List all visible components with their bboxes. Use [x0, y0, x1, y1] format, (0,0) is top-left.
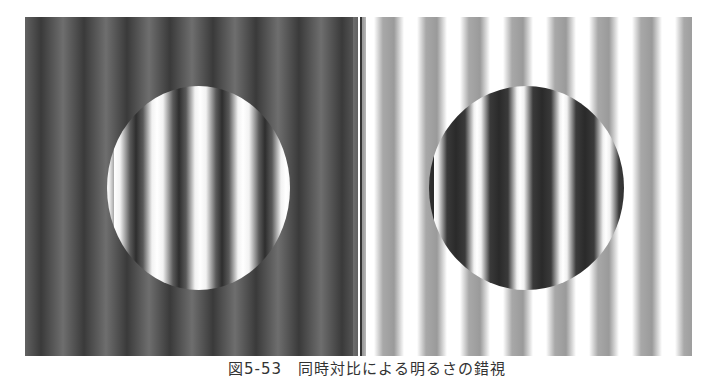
left-grating-panel — [25, 17, 358, 356]
panel-divider — [360, 17, 362, 356]
figure-caption: 図5-53 同時対比による明るさの錯視 — [228, 360, 508, 378]
left-circular-grating-patch — [107, 86, 290, 290]
right-grating-panel — [360, 17, 692, 356]
right-circular-grating-patch — [429, 86, 624, 290]
